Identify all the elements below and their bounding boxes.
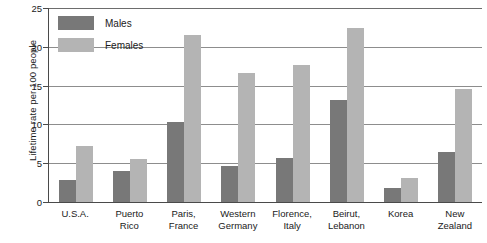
legend-swatch-males-icon	[58, 16, 94, 30]
bar-males	[384, 188, 401, 202]
bar-males	[167, 122, 184, 202]
bar-females	[184, 35, 201, 202]
y-axis-tick-label: 25	[31, 3, 42, 14]
bar-chart: Lifetime rate per 100 people 0510152025 …	[0, 0, 487, 243]
x-axis-category-label: NewZealand	[428, 205, 482, 243]
bar-females	[455, 89, 472, 202]
bar-females	[401, 178, 418, 202]
bar-females	[76, 146, 93, 202]
x-axis-category-label: U.S.A.	[48, 205, 102, 243]
bar-males	[59, 180, 76, 203]
bar-males	[438, 152, 455, 202]
legend-swatch-females-icon	[58, 38, 94, 52]
y-axis-tick-label: 15	[31, 80, 42, 91]
x-axis-category-label: Florence,Italy	[265, 205, 319, 243]
bar-group	[374, 8, 428, 202]
x-axis-category-label: Beirut,Lebanon	[319, 205, 373, 243]
bar-males	[276, 158, 293, 202]
y-axis-tick-labels: 0510152025	[22, 0, 42, 243]
x-axis-line	[48, 202, 482, 203]
x-axis-category-label: Paris,France	[157, 205, 211, 243]
bar-males	[221, 166, 238, 202]
x-axis-category-label: WesternGermany	[211, 205, 265, 243]
x-axis-category-label: Korea	[374, 205, 428, 243]
legend-label-males: Males	[105, 18, 132, 29]
bar-females	[130, 159, 147, 202]
bar-group	[428, 8, 482, 202]
y-axis-tick-label: 10	[31, 119, 42, 130]
y-axis-tick-label: 20	[31, 41, 42, 52]
x-axis-category-labels: U.S.A.PuertoRicoParis,FranceWesternGerma…	[48, 205, 482, 243]
y-axis-tick-label: 0	[37, 197, 42, 208]
bar-group	[266, 8, 320, 202]
y-axis-tick-label: 5	[37, 158, 42, 169]
bar-group	[211, 8, 265, 202]
bar-females	[238, 73, 255, 202]
legend-label-females: Females	[105, 40, 143, 51]
bar-females	[347, 28, 364, 202]
legend-item-males: Males	[58, 14, 178, 32]
bar-group	[320, 8, 374, 202]
x-axis-category-label: PuertoRico	[102, 205, 156, 243]
bar-females	[293, 65, 310, 202]
legend-item-females: Females	[58, 36, 178, 54]
legend: Males Females	[58, 14, 178, 58]
bar-males	[330, 100, 347, 202]
bar-males	[113, 171, 130, 202]
